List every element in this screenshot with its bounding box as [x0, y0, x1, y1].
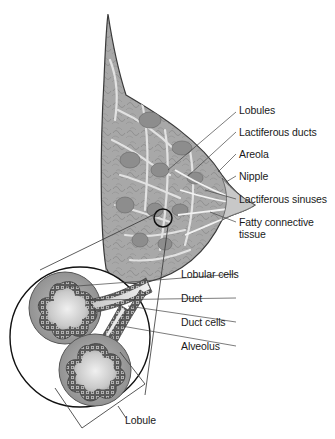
label-duct: Duct [181, 292, 202, 304]
label-nipple: Nipple [239, 170, 268, 182]
upper-lobule-alveolus [29, 272, 101, 344]
label-areola: Areola [239, 148, 269, 160]
label-lobules: Lobules [239, 104, 275, 116]
label-lobular-cells: Lobular cells [181, 268, 239, 280]
lower-lobule-alveolus [59, 334, 131, 406]
label-lobule: Lobule [125, 414, 156, 426]
label-fatty-connective-tissue-line2: tissue [239, 228, 266, 240]
label-lactiferous-ducts: Lactiferous ducts [239, 126, 317, 138]
label-duct-cells: Duct cells [181, 316, 226, 328]
label-alveolus: Alveolus [181, 340, 220, 352]
label-fatty-connective-tissue-line1: Fatty connective [239, 216, 314, 228]
label-lactiferous-sinuses: Lactiferous sinuses [239, 193, 327, 205]
